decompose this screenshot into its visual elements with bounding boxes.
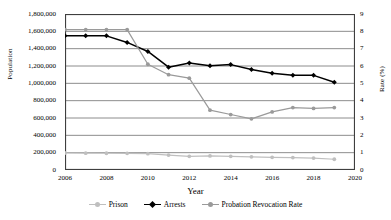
data-point-marker bbox=[249, 67, 254, 72]
y-axis-left-tick-label: 1,400,000 bbox=[6, 44, 56, 52]
legend-item[interactable]: Arrests bbox=[144, 200, 186, 209]
y-axis-right-tick-label: 4 bbox=[360, 96, 382, 104]
y-axis-left-tick-label: 400,000 bbox=[6, 131, 56, 139]
legend-item[interactable]: Probation Revocation Rate bbox=[202, 200, 303, 209]
data-point-marker bbox=[83, 33, 88, 38]
y-axis-left-tick-label: 1,600,000 bbox=[6, 27, 56, 35]
x-axis-tick-label: 2012 bbox=[171, 174, 207, 182]
legend-marker-icon bbox=[89, 201, 106, 208]
data-point-marker bbox=[167, 73, 171, 77]
y-axis-left-tick-label: 0 bbox=[6, 166, 56, 174]
data-point-marker bbox=[105, 151, 109, 155]
chart-legend: PrisonArrestsProbation Revocation Rate bbox=[0, 200, 391, 209]
data-point-marker bbox=[311, 73, 316, 78]
x-axis-tick-label: 2016 bbox=[254, 174, 290, 182]
y-axis-right-tick-label: 2 bbox=[360, 131, 382, 139]
y-axis-right-tick-label: 0 bbox=[360, 166, 382, 174]
y-axis-left-tick-label: 1,200,000 bbox=[6, 62, 56, 70]
data-point-marker bbox=[84, 151, 88, 155]
data-point-marker bbox=[187, 76, 191, 80]
data-point-marker bbox=[250, 117, 254, 121]
series-arrests bbox=[65, 33, 337, 85]
x-axis-tick-label: 2010 bbox=[130, 174, 166, 182]
y-axis-right-tick-label: 6 bbox=[360, 62, 382, 70]
x-axis-title: Year bbox=[0, 186, 391, 196]
data-point-marker bbox=[229, 113, 233, 117]
x-axis-tick-label: 2008 bbox=[88, 174, 124, 182]
data-point-marker bbox=[146, 152, 150, 156]
data-point-marker bbox=[125, 40, 130, 45]
data-point-marker bbox=[270, 71, 275, 76]
y-axis-right-tick-label: 8 bbox=[360, 27, 382, 35]
legend-item-label: Prison bbox=[109, 200, 128, 209]
data-point-marker bbox=[270, 155, 274, 159]
y-axis-right-tick-label: 1 bbox=[360, 148, 382, 156]
data-point-marker bbox=[84, 28, 88, 32]
data-point-marker bbox=[167, 153, 171, 157]
data-point-marker bbox=[65, 33, 68, 38]
x-axis-tick-label: 2020 bbox=[337, 174, 373, 182]
plot-svg bbox=[65, 14, 355, 170]
series-probation-revocation-rate bbox=[65, 28, 336, 121]
y-axis-left-tick-label: 800,000 bbox=[6, 96, 56, 104]
y-axis-right-tick-label: 5 bbox=[360, 79, 382, 87]
data-point-marker bbox=[208, 63, 213, 68]
x-axis-tick-label: 2014 bbox=[213, 174, 249, 182]
data-point-marker bbox=[125, 151, 129, 155]
legend-item-label: Arrests bbox=[164, 200, 186, 209]
data-point-marker bbox=[208, 154, 212, 158]
data-point-marker bbox=[125, 28, 129, 32]
plot-area bbox=[65, 14, 355, 170]
plot-frame bbox=[66, 15, 355, 170]
data-point-marker bbox=[65, 151, 67, 155]
y-axis-left-tick-label: 600,000 bbox=[6, 114, 56, 122]
data-point-marker bbox=[312, 156, 316, 160]
data-point-marker bbox=[187, 61, 192, 66]
data-point-marker bbox=[105, 28, 109, 32]
y-axis-left-tick-label: 1,000,000 bbox=[6, 79, 56, 87]
y-axis-right-tick-label: 7 bbox=[360, 44, 382, 52]
data-point-marker bbox=[290, 73, 295, 78]
legend-item-label: Probation Revocation Rate bbox=[222, 200, 303, 209]
y-axis-right-tick-label: 3 bbox=[360, 114, 382, 122]
data-point-marker bbox=[208, 108, 212, 112]
legend-marker-icon bbox=[202, 201, 219, 208]
legend-marker-icon bbox=[144, 201, 161, 208]
data-point-marker bbox=[332, 157, 336, 161]
data-point-marker bbox=[250, 155, 254, 159]
data-point-marker bbox=[332, 80, 337, 85]
legend-item[interactable]: Prison bbox=[89, 200, 128, 209]
data-point-marker bbox=[104, 33, 109, 38]
x-axis-tick-label: 2018 bbox=[296, 174, 332, 182]
data-point-marker bbox=[187, 154, 191, 158]
data-point-marker bbox=[291, 106, 295, 110]
data-point-marker bbox=[270, 110, 274, 114]
data-point-marker bbox=[146, 62, 150, 66]
data-point-marker bbox=[332, 106, 336, 110]
data-point-marker bbox=[229, 154, 233, 158]
y-axis-right-tick-label: 9 bbox=[360, 10, 382, 18]
chart-figure: Population Rate (%) Year 0200,000400,000… bbox=[0, 0, 391, 220]
y-axis-left-tick-label: 200,000 bbox=[6, 148, 56, 156]
y-axis-left-tick-label: 1,800,000 bbox=[6, 10, 56, 18]
data-point-marker bbox=[312, 107, 316, 111]
data-point-marker bbox=[291, 156, 295, 160]
x-axis-tick-label: 2006 bbox=[47, 174, 83, 182]
